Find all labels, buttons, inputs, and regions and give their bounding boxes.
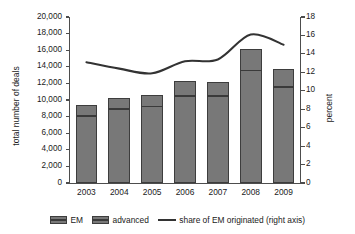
y-axis-right-tick [301, 109, 305, 110]
bar-segment-em [273, 87, 295, 183]
y-axis-right-line [300, 17, 301, 184]
bar-stack [174, 81, 196, 183]
bar-segment-divider [141, 106, 163, 108]
y-axis-left-tick [66, 83, 70, 84]
y-axis-left-tick [66, 16, 70, 17]
bar-segment-em [108, 109, 130, 183]
y-axis-right-tick [301, 16, 305, 17]
y-axis-left-tick-label: 4,000 [2, 144, 62, 153]
bar-segment-em [141, 107, 163, 183]
legend-label-share-of-em: share of EM originated (right axis) [179, 215, 305, 225]
legend-item-share-of-em: share of EM originated (right axis) [158, 215, 305, 225]
y-axis-left-tick [66, 50, 70, 51]
y-axis-right-tick [301, 182, 305, 183]
bar-stack [273, 69, 295, 183]
legend-label-advanced: advanced [113, 215, 149, 225]
y-axis-left-tick [66, 166, 70, 167]
y-axis-right-tick-label: 8 [306, 104, 336, 113]
legend-item-advanced: advanced [92, 215, 149, 225]
y-axis-right-tick [301, 72, 305, 73]
y-axis-left-tick-label: 18,000 [2, 28, 62, 37]
y-axis-right-tick [301, 146, 305, 147]
bar-segment-advanced [207, 82, 229, 96]
y-axis-left-tick-label: 0 [2, 178, 62, 187]
bar-segment-divider [207, 95, 229, 97]
bar-stack [207, 82, 229, 183]
bar-segment-advanced [240, 49, 262, 70]
chart-legend: EM advanced share of EM originated (righ… [0, 211, 355, 229]
bar-segment-em [174, 96, 196, 183]
y-axis-left-tick [66, 182, 70, 183]
y-axis-left-tick-label: 16,000 [2, 45, 62, 54]
y-axis-right-tick-label: 16 [306, 30, 336, 39]
y-axis-right-tick [301, 53, 305, 54]
legend-swatch-em [50, 216, 67, 224]
bar-segment-advanced [273, 69, 295, 86]
y-axis-left-tick [66, 33, 70, 34]
y-axis-right-tick-label: 6 [306, 122, 336, 131]
y-axis-right-tick [301, 35, 305, 36]
y-axis-left-tick [66, 149, 70, 150]
chart-figure: total number of deals percent 02,0004,00… [0, 0, 355, 234]
y-axis-right-tick-label: 14 [306, 48, 336, 57]
y-axis-left-tick-label: 20,000 [2, 12, 62, 21]
bar-segment-divider [108, 108, 130, 110]
legend-swatch-advanced [92, 216, 109, 224]
y-axis-right-tick [301, 164, 305, 165]
plot-area [70, 17, 300, 183]
y-axis-right-tick-label: 2 [306, 159, 336, 168]
bar-segment-divider [76, 115, 98, 117]
y-axis-left-tick [66, 99, 70, 100]
bar-segment-divider [273, 86, 295, 88]
legend-label-em: EM [70, 215, 83, 225]
y-axis-right-tick-label: 0 [306, 178, 336, 187]
y-axis-left-tick-label: 14,000 [2, 61, 62, 70]
bar-segment-advanced [174, 81, 196, 96]
bar-segment-divider [174, 95, 196, 97]
bar-stack [108, 98, 130, 183]
bar-segment-divider [240, 70, 262, 72]
y-axis-left-tick [66, 116, 70, 117]
legend-line-share-of-em [158, 219, 176, 221]
bar-segment-em [76, 116, 98, 183]
bar-stack [240, 49, 262, 183]
legend-item-em: EM [50, 215, 83, 225]
y-axis-left-tick-label: 12,000 [2, 78, 62, 87]
y-axis-left-tick-label: 10,000 [2, 95, 62, 104]
x-axis-line [69, 183, 302, 184]
x-axis-tick-label: 2009 [264, 187, 304, 197]
bar-stack [76, 105, 98, 183]
y-axis-right-tick [301, 90, 305, 91]
bar-stack [141, 95, 163, 183]
bar-segment-em [207, 96, 229, 183]
y-axis-left-tick-label: 6,000 [2, 128, 62, 137]
bar-segment-em [240, 71, 262, 183]
y-axis-left-tick-label: 8,000 [2, 111, 62, 120]
y-axis-left-tick-label: 2,000 [2, 161, 62, 170]
y-axis-right-tick [301, 127, 305, 128]
y-axis-left-tick [66, 133, 70, 134]
y-axis-right-tick-label: 12 [306, 67, 336, 76]
y-axis-right-tick-label: 18 [306, 12, 336, 21]
y-axis-right-tick-label: 10 [306, 85, 336, 94]
y-axis-right-tick-label: 4 [306, 141, 336, 150]
y-axis-left-tick [66, 66, 70, 67]
